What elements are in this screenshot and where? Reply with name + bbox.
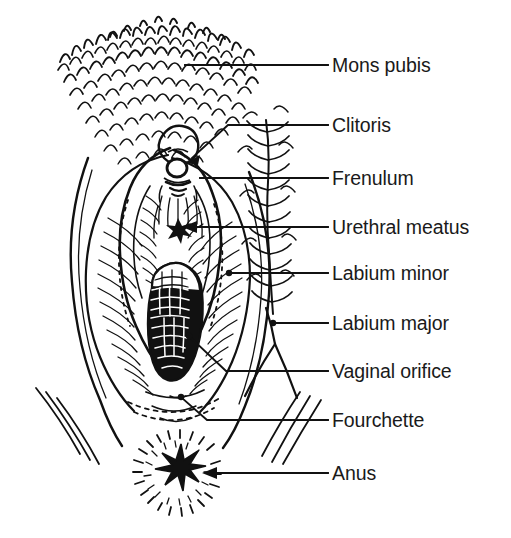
clitoris-glans [167, 159, 187, 177]
label-urethral-meatus: Urethral meatus [332, 218, 469, 238]
label-mons-pubis: Mons pubis [332, 56, 431, 76]
label-frenulum: Frenulum [332, 169, 414, 189]
anatomical-figure: Mons pubis Clitoris Frenulum Urethral me… [0, 0, 511, 538]
label-labium-minor: Labium minor [332, 264, 449, 284]
label-clitoris: Clitoris [332, 116, 391, 136]
label-vaginal-orifice: Vaginal orifice [332, 362, 452, 382]
label-fourchette: Fourchette [332, 411, 424, 431]
label-labium-major: Labium major [332, 314, 449, 334]
label-anus: Anus [332, 464, 376, 484]
